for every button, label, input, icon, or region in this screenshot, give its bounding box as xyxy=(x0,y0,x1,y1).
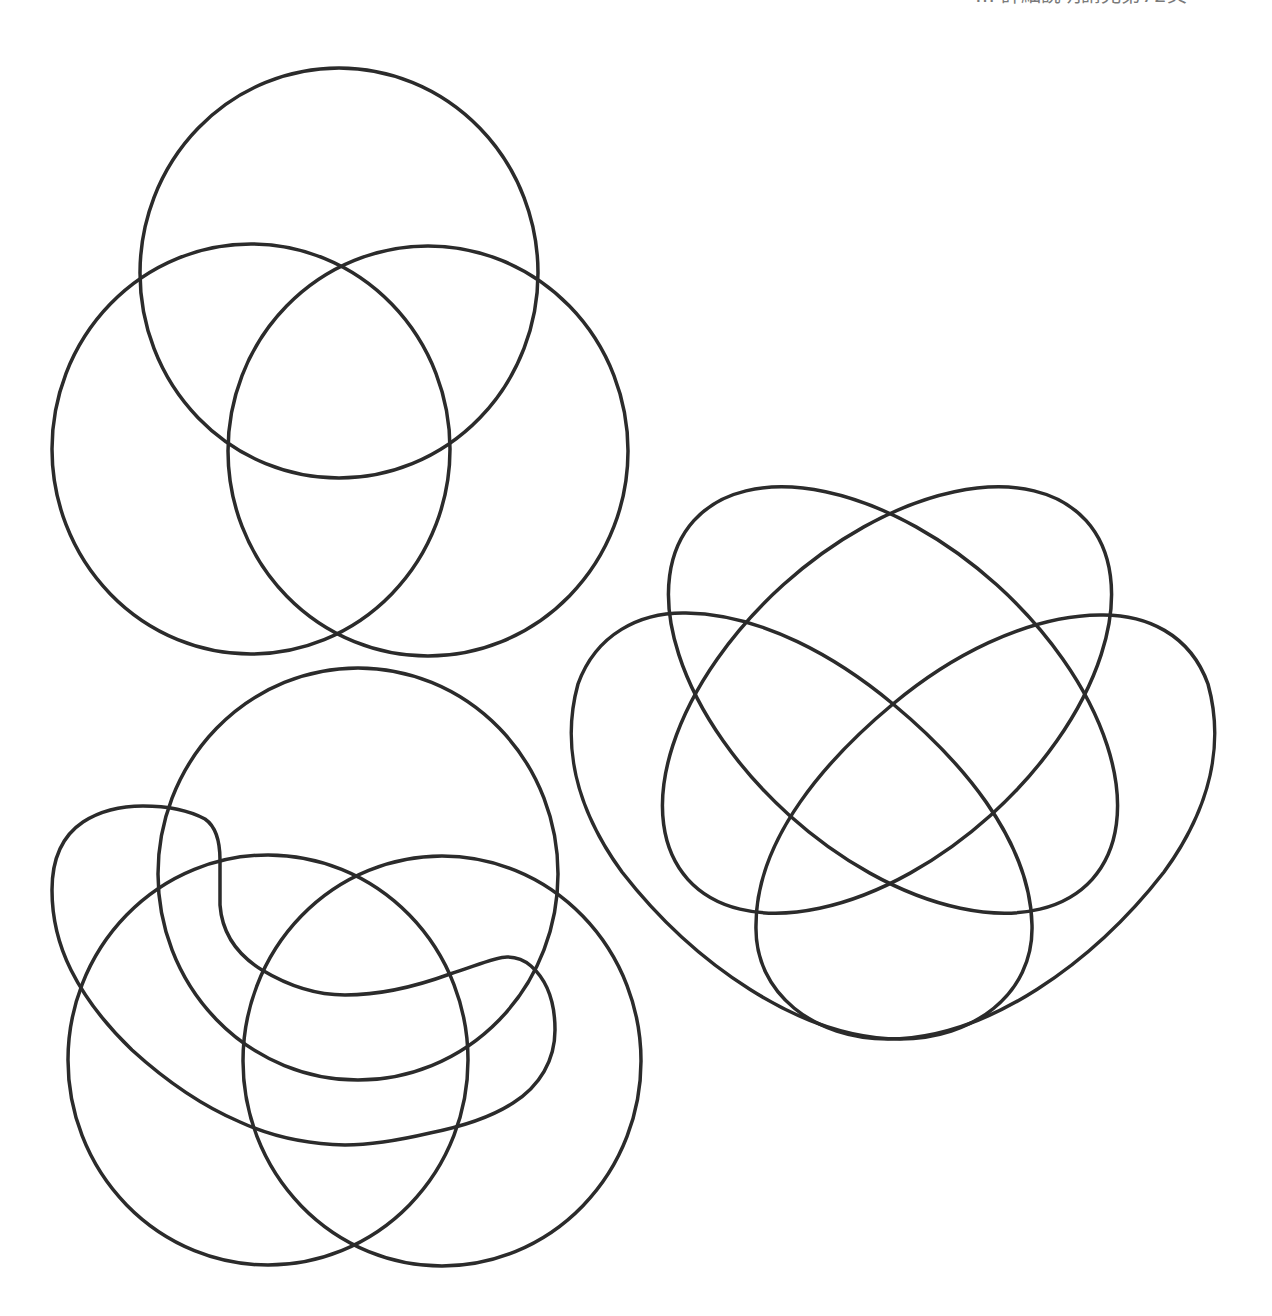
four-set-ellipse-venn xyxy=(571,405,1214,1039)
three-set-venn-left-circle xyxy=(52,244,450,654)
three-set-venn-top-circle xyxy=(140,68,538,478)
four-set-ellipse-venn-nw-se-ellipse xyxy=(590,405,1196,994)
three-set-venn xyxy=(52,68,628,656)
four-set-venn-with-wiggly-curve-left-circle xyxy=(68,855,468,1265)
four-set-venn-with-wiggly-curve xyxy=(52,668,641,1266)
three-set-venn-right-circle xyxy=(228,246,628,656)
venn-diagrams-canvas xyxy=(0,0,1272,1316)
four-set-ellipse-venn-right-teardrop xyxy=(756,615,1215,1039)
